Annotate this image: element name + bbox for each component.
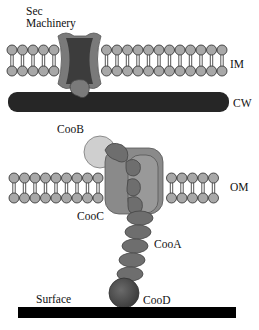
cood-icon: [109, 278, 139, 308]
cooc-usher-icon: [105, 143, 163, 214]
cood-label: CooD: [143, 294, 170, 306]
sec-label-line2: Machinery: [26, 17, 76, 29]
inner-membrane: [7, 45, 227, 76]
pilus-diagram: [0, 0, 259, 330]
cw-label: CW: [233, 97, 252, 109]
surface-label: Surface: [36, 293, 71, 305]
cooc-label: CooC: [77, 210, 104, 222]
sec-label-line1: Sec: [26, 5, 43, 17]
om-label: OM: [230, 181, 249, 193]
cell-wall-bar: [8, 92, 229, 112]
coob-label: CooB: [57, 123, 84, 135]
im-label: IM: [230, 58, 244, 70]
surface-bar: [18, 307, 236, 318]
cooa-label: CooA: [154, 238, 181, 250]
cooa-pilus-icon: [117, 211, 153, 281]
sec-machinery-icon: [58, 33, 101, 98]
